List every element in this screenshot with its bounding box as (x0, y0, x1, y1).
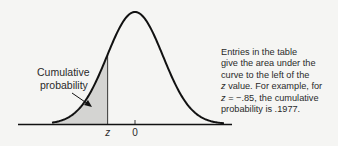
zero-axis-label: 0 (132, 127, 138, 138)
note-line-4-text: value. For example, for (226, 81, 323, 91)
note-line-5: z = −.85, the cumulative (221, 93, 336, 104)
note-line-3: curve to the left of the (221, 70, 336, 81)
note-line-5-text: = −.85, the cumulative (226, 93, 319, 103)
note-line-4: z value. For example, for (221, 81, 336, 92)
pointer-arrow-shaft (72, 93, 88, 104)
cumulative-label-line1: Cumulative (37, 66, 90, 78)
explanation-note: Entries in the table give the area under… (221, 47, 336, 115)
note-line-2: give the area under the (221, 58, 336, 69)
note-line-1: Entries in the table (221, 47, 336, 58)
note-line-6: probability is .1977. (221, 104, 336, 115)
z-axis-label: z (104, 127, 110, 138)
cumulative-label-line2: probability (40, 79, 89, 91)
